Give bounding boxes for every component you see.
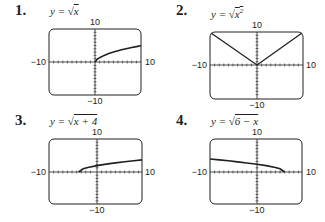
ymax-label: 10 bbox=[90, 17, 100, 27]
graphs-canvas: 10 −10 −10 10 10 −10 −10 10 10 −10 bbox=[0, 0, 325, 222]
ymax-label: 10 bbox=[92, 127, 102, 137]
ymin-label: −10 bbox=[249, 100, 264, 110]
ymax-label: 10 bbox=[252, 20, 262, 30]
curve bbox=[210, 159, 285, 172]
xmin-label: −10 bbox=[31, 167, 46, 177]
xmin-label: −10 bbox=[31, 57, 46, 67]
xmax-label: 10 bbox=[145, 167, 155, 177]
xmin-label: −10 bbox=[192, 60, 207, 70]
xmax-label: 10 bbox=[145, 57, 155, 67]
curve bbox=[95, 46, 141, 62]
xmin-label: −10 bbox=[192, 167, 207, 177]
xmax-label: 10 bbox=[306, 167, 316, 177]
ymin-label: −10 bbox=[249, 205, 264, 215]
graph-3: 10 −10 −10 10 bbox=[31, 127, 155, 215]
ymax-label: 10 bbox=[252, 127, 262, 137]
curve bbox=[211, 33, 302, 65]
graph-2: 10 −10 −10 10 bbox=[192, 20, 316, 110]
ymin-label: −10 bbox=[87, 96, 102, 106]
graph-1: 10 −10 −10 10 bbox=[31, 17, 155, 106]
curve bbox=[79, 160, 142, 172]
ymin-label: −10 bbox=[89, 205, 104, 215]
graph-4: 10 −10 −10 10 bbox=[192, 127, 316, 215]
xmax-label: 10 bbox=[306, 60, 316, 70]
